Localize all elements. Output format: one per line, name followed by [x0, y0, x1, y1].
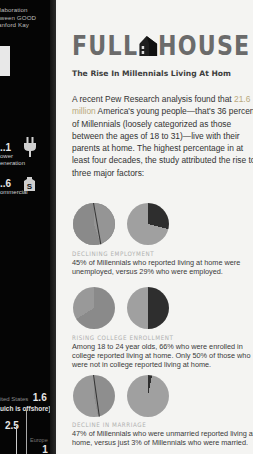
region-value: 1.6: [33, 392, 47, 403]
collab-line: tween GOOD: [0, 14, 36, 22]
region-label: ited States: [0, 396, 28, 402]
article-subtitle: The Rise In Millennials Living At Hom: [72, 69, 231, 78]
factor-college: Rising College Enrollment Among 18 to 24…: [72, 334, 253, 370]
article-page: FULLHOUSE The Rise In Millennials Living…: [58, 0, 253, 454]
stat-europe: Europe 1: [30, 437, 48, 454]
factor-text: Among 18 to 24 year olds, 66% who were e…: [72, 342, 253, 370]
stat-label: ower: [0, 153, 25, 160]
pie-college-enrolled: [73, 287, 115, 329]
collab-line: anford Kay: [0, 21, 36, 29]
plug-icon: [24, 137, 36, 161]
intro-text: America's young people—that's 36 percent…: [72, 106, 253, 177]
page-gutter: [50, 0, 56, 454]
pie-employment-unemployed: [73, 203, 115, 245]
stat-power-generation: ..1 ower eneration: [0, 142, 25, 167]
factor-heading: Decline In Marriage: [72, 421, 253, 428]
white-block: [0, 46, 10, 76]
title-right: HOUSE: [158, 30, 251, 61]
region-label: Europe: [30, 437, 48, 444]
factor-employment: Declining Employment 45% of Millennials …: [72, 250, 253, 276]
factor-marriage: Decline In Marriage 47% of Millennials w…: [72, 421, 253, 447]
stat-label: eneration: [0, 160, 25, 167]
stat-united-states: ited States 1.6 uich is offshore): [0, 387, 51, 412]
factor-text: 47% of Millennials who were unmarried re…: [72, 429, 253, 447]
factor-heading: Declining Employment: [72, 250, 253, 257]
house-icon: [139, 31, 157, 51]
factor-text: 45% of Millennials who reported living a…: [72, 258, 253, 276]
svg-text:S: S: [27, 182, 33, 191]
factor-heading: Rising College Enrollment: [72, 334, 253, 341]
leader-line: [16, 426, 17, 454]
article-title: FULLHOUSE: [72, 30, 250, 61]
left-page-dark-panel: llaboration tween GOOD anford Kay ..1 ow…: [0, 0, 56, 454]
leader-line: [26, 410, 27, 454]
pie-employment-employed: [127, 203, 169, 245]
title-left: FULL: [72, 30, 138, 61]
pie-college-not-enrolled: [127, 287, 169, 329]
intro-paragraph: A recent Pew Research analysis found tha…: [72, 93, 253, 179]
collaboration-text: llaboration tween GOOD anford Kay: [0, 6, 36, 29]
collab-line: llaboration: [0, 6, 36, 14]
stat-value: ..1: [0, 142, 25, 153]
intro-text: A recent Pew Research analysis found tha…: [72, 94, 234, 104]
region-value: 1: [30, 444, 48, 454]
pie-marriage-unmarried: [73, 375, 115, 417]
pie-marriage-married: [127, 375, 169, 417]
dollar-tag-icon: S: [24, 177, 35, 195]
pie-divider: [93, 203, 101, 245]
pie-divider: [93, 375, 100, 417]
